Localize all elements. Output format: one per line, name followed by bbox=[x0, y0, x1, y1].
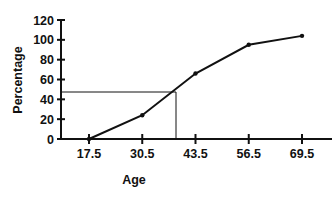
y-tick-label: 100 bbox=[33, 33, 54, 47]
series-line bbox=[89, 36, 302, 139]
x-tick-label: 43.5 bbox=[183, 147, 207, 161]
y-tick-label: 40 bbox=[40, 93, 54, 107]
data-point bbox=[87, 137, 91, 141]
data-point bbox=[140, 113, 144, 117]
y-axis-title: Percentage bbox=[11, 46, 25, 113]
x-tick-label: 17.5 bbox=[77, 147, 101, 161]
y-tick-label: 60 bbox=[40, 73, 54, 87]
ogive-chart: 020406080100120 17.530.543.556.569.5 Age… bbox=[0, 0, 336, 197]
y-tick-label: 0 bbox=[47, 133, 54, 147]
data-point bbox=[193, 71, 197, 75]
reference-lines bbox=[61, 92, 176, 139]
y-tick-label: 80 bbox=[40, 53, 54, 67]
x-tick-label: 30.5 bbox=[130, 147, 154, 161]
x-axis-title: Age bbox=[122, 173, 146, 187]
x-tick-label: 69.5 bbox=[290, 147, 314, 161]
y-tick-label: 120 bbox=[33, 14, 54, 28]
x-tick-label: 56.5 bbox=[237, 147, 261, 161]
data-point bbox=[247, 43, 251, 47]
y-tick-label: 20 bbox=[40, 113, 54, 127]
data-point bbox=[300, 34, 304, 38]
